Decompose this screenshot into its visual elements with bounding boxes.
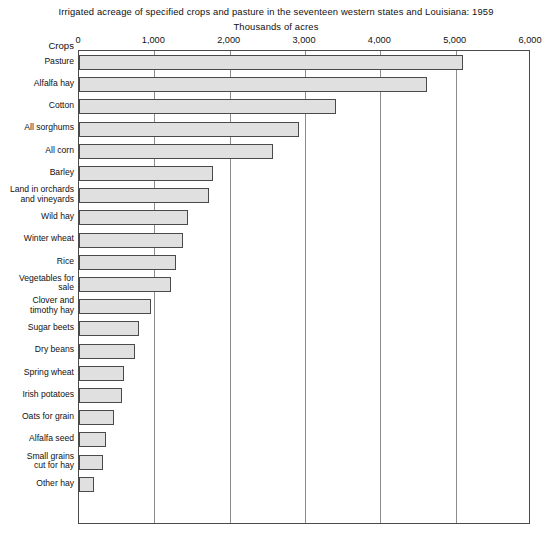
category-label-line: Alfalfa seed: [29, 433, 74, 443]
category-label-list: PastureAlfalfa hayCottonAll sorghumsAll …: [0, 50, 74, 524]
category-label: Sugar beets: [0, 323, 74, 333]
category-label: Cotton: [0, 101, 74, 111]
category-label-line: Small grains: [27, 451, 74, 461]
bar: [79, 233, 183, 248]
category-label-line: Land in orchards: [10, 184, 74, 194]
x-tick-label: 6,000: [519, 35, 542, 45]
category-label: Pasture: [0, 57, 74, 67]
category-label: Vegetables forsale: [0, 274, 74, 293]
x-tick-label: 4,000: [368, 35, 391, 45]
chart-title: Irrigated acreage of specified crops and…: [0, 6, 552, 17]
category-label-line: and vineyards: [0, 195, 74, 205]
bar: [79, 255, 176, 270]
x-tick-label: 0: [75, 35, 80, 45]
x-axis-tick-labels: 01,0002,0003,0004,0005,0006,000: [0, 35, 552, 48]
category-label-line: Pasture: [44, 56, 74, 66]
bar: [79, 477, 94, 492]
plot-area: [78, 50, 530, 524]
category-label: Irish potatoes: [0, 390, 74, 400]
category-label-line: Sugar beets: [28, 322, 74, 332]
category-label-line: sale: [0, 283, 74, 293]
bar: [79, 77, 427, 92]
category-label-line: Barley: [50, 167, 74, 177]
category-label: Small grainscut for hay: [0, 452, 74, 471]
category-label: Rice: [0, 257, 74, 267]
x-tick-label: 2,000: [217, 35, 240, 45]
category-label-line: Oats for grain: [22, 411, 74, 421]
bar: [79, 277, 171, 292]
category-label: Wild hay: [0, 212, 74, 222]
category-label-line: Winter wheat: [24, 233, 74, 243]
category-label: Land in orchardsand vineyards: [0, 185, 74, 204]
bar: [79, 122, 299, 137]
bar-chart: Irrigated acreage of specified crops and…: [0, 0, 552, 539]
category-label-line: Alfalfa hay: [34, 78, 74, 88]
bar: [79, 344, 135, 359]
category-label-line: Clover and: [32, 295, 74, 305]
bar: [79, 99, 336, 114]
category-label-line: Other hay: [36, 478, 74, 488]
bar: [79, 410, 114, 425]
bar: [79, 144, 273, 159]
category-label-line: All sorghums: [24, 122, 74, 132]
x-tick-label: 3,000: [293, 35, 316, 45]
category-label-line: Spring wheat: [24, 367, 74, 377]
category-label: Barley: [0, 168, 74, 178]
category-label-line: Wild hay: [41, 211, 74, 221]
bar: [79, 366, 124, 381]
bar: [79, 455, 103, 470]
category-label-line: Irish potatoes: [22, 389, 74, 399]
bar: [79, 299, 151, 314]
x-tick-label: 1,000: [142, 35, 165, 45]
category-label-line: Cotton: [49, 100, 74, 110]
x-tick-label: 5,000: [443, 35, 466, 45]
category-label: All sorghums: [0, 123, 74, 133]
category-label: Alfalfa hay: [0, 79, 74, 89]
bar: [79, 388, 122, 403]
category-label: Spring wheat: [0, 368, 74, 378]
category-label-line: All corn: [45, 145, 74, 155]
category-label: Winter wheat: [0, 234, 74, 244]
category-label: Clover andtimothy hay: [0, 296, 74, 315]
bar: [79, 166, 213, 181]
bar: [79, 55, 463, 70]
chart-subtitle: Thousands of acres: [0, 21, 552, 32]
category-label-line: Vegetables for: [19, 273, 74, 283]
category-label: Other hay: [0, 479, 74, 489]
bars-layer: [79, 51, 529, 523]
category-label: Alfalfa seed: [0, 434, 74, 444]
bar: [79, 188, 209, 203]
category-label-line: timothy hay: [0, 306, 74, 316]
category-label-line: Rice: [57, 256, 74, 266]
category-label-line: Dry beans: [35, 344, 74, 354]
bar: [79, 432, 106, 447]
bar: [79, 210, 188, 225]
bar: [79, 321, 139, 336]
category-label: Oats for grain: [0, 412, 74, 422]
category-label: All corn: [0, 146, 74, 156]
category-label: Dry beans: [0, 345, 74, 355]
category-label-line: cut for hay: [0, 461, 74, 471]
